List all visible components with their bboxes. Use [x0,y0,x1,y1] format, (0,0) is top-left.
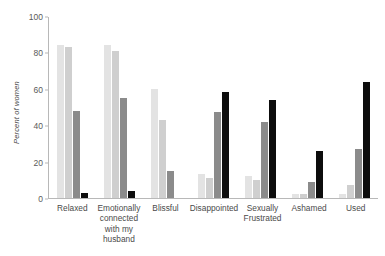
y-tick-label: 0 [38,194,43,204]
bar-group [190,17,237,198]
x-axis-line [48,198,378,199]
bar-group [331,17,378,198]
bar [206,178,213,198]
y-tick-label: 80 [34,48,43,58]
bar [253,180,260,198]
x-axis-label: Ashamed [286,203,333,213]
bar [245,176,252,198]
y-tick-mark [45,53,48,54]
x-axis-label: Disappointed [189,203,239,213]
bar [355,149,362,198]
bar [167,171,174,198]
y-tick-mark [45,89,48,90]
y-tick-mark [45,17,48,18]
y-axis-label: Percent of women [12,53,21,173]
x-axis-label: Sexually Frustrated [239,203,286,224]
bar [347,185,354,198]
bar [198,174,205,198]
y-tick-mark [45,162,48,163]
bar [308,182,315,198]
bar [159,120,166,198]
bar [214,112,221,198]
bar-group [143,17,190,198]
y-tick-label: 100 [29,12,43,22]
y-tick-mark [45,199,48,200]
x-axis-label: Relaxed [49,203,96,213]
y-tick-label: 20 [34,158,43,168]
bar [81,193,88,198]
y-tick-label: 40 [34,121,43,131]
bar [269,100,276,198]
bar [128,191,135,198]
bar [292,194,299,198]
bar-group [96,17,143,198]
bar-chart: Percent of women 020406080100 RelaxedEmo… [0,0,385,256]
x-axis-label: Used [332,203,379,213]
bar [261,122,268,198]
bar [104,45,111,198]
x-axis-label: Emotionally connected with my husband [96,203,143,245]
bar [73,111,80,198]
bar [65,47,72,198]
bar [316,151,323,198]
bar [222,92,229,198]
y-tick-label: 60 [34,85,43,95]
bar-group [237,17,284,198]
bar [112,51,119,198]
x-axis-labels: RelaxedEmotionally connected with my hus… [49,203,379,245]
plot-area: 020406080100 [48,17,378,199]
y-tick-mark [45,126,48,127]
bar [339,194,346,198]
bar [57,45,64,198]
bar [120,98,127,198]
bar-groups [49,17,378,198]
bar-group [284,17,331,198]
bar [363,82,370,198]
bar [151,89,158,198]
bar-group [49,17,96,198]
x-axis-label: Blissful [142,203,189,213]
bar [300,194,307,198]
